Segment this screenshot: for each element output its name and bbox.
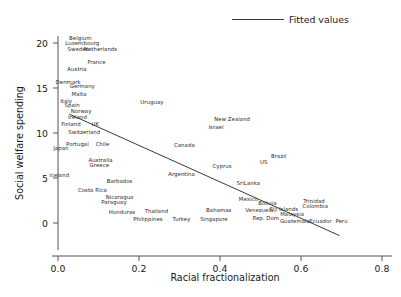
data-point-label: Netherlands <box>84 46 117 52</box>
fitted-values-legend-label: Fitted values <box>289 14 349 25</box>
fitted-values-legend-swatch <box>232 19 284 20</box>
x-axis-tick-label: 0.6 <box>294 263 309 274</box>
data-point-label: Canada <box>174 142 195 148</box>
data-point-label: SriLanka <box>237 180 261 186</box>
y-axis-tick-label: 0 <box>42 218 48 229</box>
y-axis-title: Social welfare spending <box>14 86 25 200</box>
data-point-label: Spain <box>65 102 80 108</box>
data-point-label: Thailand <box>145 208 168 214</box>
x-axis-tick-label: 0.4 <box>213 263 228 274</box>
data-point-label: New Zealand <box>214 116 250 122</box>
data-point-label: Rep. Dom <box>252 215 279 221</box>
data-point-label: Barbados <box>107 178 133 184</box>
data-point-label: Chile <box>96 141 110 147</box>
data-point-label: Iceland <box>49 172 69 178</box>
data-point-label: Brazil <box>271 153 286 159</box>
data-point-label: Guatemala <box>280 218 310 224</box>
x-axis-tick-label: 0.2 <box>132 263 147 274</box>
data-point-label: Greece <box>90 162 109 168</box>
data-point-label: Uruguay <box>140 99 163 105</box>
data-point-label: Venezuela <box>245 207 273 213</box>
data-point-label: Cyprus <box>212 163 231 169</box>
y-axis-tick-label: 5 <box>42 173 48 184</box>
data-point-label: Portugal <box>66 141 89 147</box>
scatter-chart: BelgiumLuxembourgSwedenNetherlandsFrance… <box>0 0 401 297</box>
data-point-label: Switzerland <box>68 129 100 135</box>
x-axis-tick-label: 0.8 <box>375 263 390 274</box>
data-point-label: Germany <box>70 83 95 89</box>
data-point-label: Mexico <box>239 196 258 202</box>
y-axis-tick-label: 10 <box>36 128 48 139</box>
data-point-label: Paraguay <box>101 199 126 205</box>
data-point-label: Honduras <box>109 209 135 215</box>
data-point-label: Bahamas <box>206 207 231 213</box>
data-point-label: Singapore <box>200 216 228 222</box>
data-point-label: Ireland <box>68 114 87 120</box>
data-point-label: Israel <box>208 124 223 130</box>
data-point-label: Argentina <box>168 171 195 177</box>
data-point-label: Philippines <box>133 216 162 222</box>
x-axis-tick-label: 0.0 <box>51 263 66 274</box>
y-axis-tick-label: 20 <box>36 38 48 49</box>
data-point-label: Japan <box>53 145 68 151</box>
chart-legend: Fitted values <box>232 14 349 25</box>
data-point-label: Malta <box>72 91 87 97</box>
data-point-label: Ecuador <box>309 218 331 224</box>
data-point-label: Luxembourg <box>65 40 99 46</box>
data-point-label: Malaysia <box>280 211 304 217</box>
data-point-label: Turkey <box>173 216 191 222</box>
data-point-labels: BelgiumLuxembourgSwedenNetherlandsFrance… <box>0 0 401 297</box>
data-point-label: France <box>87 59 105 65</box>
data-point-label: UK <box>91 121 99 127</box>
y-axis-tick-label: 15 <box>36 83 48 94</box>
data-point-label: US <box>260 159 267 165</box>
data-point-label: Colombia <box>302 203 328 209</box>
data-point-label: Austria <box>67 66 86 72</box>
data-point-label: Finland <box>61 121 81 127</box>
data-point-label: Peru <box>335 218 347 224</box>
data-point-label: Costa Rica <box>78 187 107 193</box>
